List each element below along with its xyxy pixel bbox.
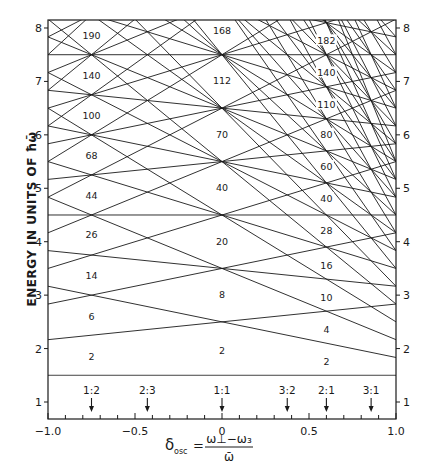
y-tick-label-right: 4 — [403, 236, 410, 249]
magic-number-2: 2 — [323, 356, 329, 367]
ratio-label-1-2: 1:2 — [83, 384, 100, 396]
y-tick-label-right: 3 — [403, 289, 410, 302]
magic-number-2: 2 — [219, 345, 225, 356]
level-line-N12-n3-9 — [48, 0, 396, 1]
ratio-label-2-3: 2:3 — [139, 384, 156, 396]
level-line-N10-n3-0 — [48, 0, 396, 19]
ratio-label-3-1: 3:1 — [363, 384, 380, 396]
fraction-denominator: ω̄ — [224, 450, 234, 464]
lower-blank-region — [49, 376, 396, 419]
magic-number-60: 60 — [320, 161, 332, 172]
ratio-label-1-1: 1:1 — [214, 384, 231, 396]
level-line-N8-n3-4 — [48, 0, 396, 19]
oscillator-level-diagram: −1.0−0.500.51.0 1122334455667788 2614264… — [0, 0, 431, 474]
level-line-N2-n3-2 — [48, 197, 396, 339]
y-tick-label-right: 2 — [403, 343, 410, 356]
magic-number-10: 10 — [320, 292, 332, 303]
magic-number-112: 112 — [213, 75, 231, 86]
delta-subscript: osc — [174, 447, 187, 456]
magic-number-6: 6 — [88, 311, 94, 322]
magic-number-40: 40 — [216, 182, 228, 193]
y-tick-label-left: 1 — [35, 396, 42, 409]
level-line-N9-n3-5 — [48, 0, 396, 1]
y-tick-label-right: 5 — [403, 182, 410, 195]
magic-number-2: 2 — [88, 351, 94, 362]
fraction-numerator: ω⊥−ω₃ — [206, 432, 252, 446]
y-tick-label-left: 2 — [35, 343, 42, 356]
y-tick-label-right: 7 — [403, 75, 410, 88]
plot-canvas: −1.0−0.500.51.0 1122334455667788 2614264… — [0, 0, 431, 474]
y-tick-label-left: 7 — [35, 75, 42, 88]
magic-number-68: 68 — [85, 150, 97, 161]
magic-number-110: 110 — [317, 99, 335, 110]
magic-number-16: 16 — [320, 260, 332, 271]
magic-number-168: 168 — [213, 25, 231, 36]
y-tick-label-right: 6 — [403, 129, 410, 142]
magic-number-26: 26 — [85, 229, 97, 240]
magic-number-70: 70 — [216, 129, 228, 140]
ratio-label-3-2: 3:2 — [279, 384, 296, 396]
equals-sign: = — [193, 438, 204, 453]
level-line-N9-n3-1 — [48, 0, 396, 1]
y-tick-label-right: 1 — [403, 396, 410, 409]
level-line-N11-n3-8 — [48, 0, 396, 19]
delta-symbol: δ — [165, 436, 174, 454]
y-axis-title: ENERGY IN UNITS OF ħω̄ — [25, 131, 39, 306]
level-line-N7-n3-2 — [48, 0, 396, 19]
magic-number-100: 100 — [82, 110, 100, 121]
magic-number-44: 44 — [85, 190, 97, 201]
magic-number-14: 14 — [85, 270, 97, 281]
level-line-N7-n3-0 — [48, 0, 396, 126]
y-tick-label-right: 8 — [403, 22, 410, 35]
magic-number-182: 182 — [317, 35, 335, 46]
x-tick-label: −0.5 — [122, 425, 149, 438]
magic-number-140: 140 — [317, 67, 335, 78]
magic-number-8: 8 — [219, 289, 225, 300]
y-tick-label-left: 8 — [35, 22, 42, 35]
x-tick-label: 0.5 — [300, 425, 318, 438]
level-line-N8-n3-6 — [48, 0, 396, 126]
magic-number-20: 20 — [216, 236, 228, 247]
x-tick-label: 1.0 — [387, 425, 405, 438]
x-axis-title: δ osc = ω⊥−ω₃ ω̄ — [165, 432, 253, 464]
magic-number-40: 40 — [320, 193, 332, 204]
magic-number-140: 140 — [82, 70, 100, 81]
magic-number-80: 80 — [320, 129, 332, 140]
level-line-N11-n3-10 — [48, 0, 396, 126]
magic-number-4: 4 — [323, 324, 329, 335]
magic-number-28: 28 — [320, 225, 332, 236]
ratio-label-2-1: 2:1 — [318, 384, 335, 396]
magic-number-190: 190 — [82, 30, 100, 41]
x-tick-label: −1.0 — [35, 425, 62, 438]
